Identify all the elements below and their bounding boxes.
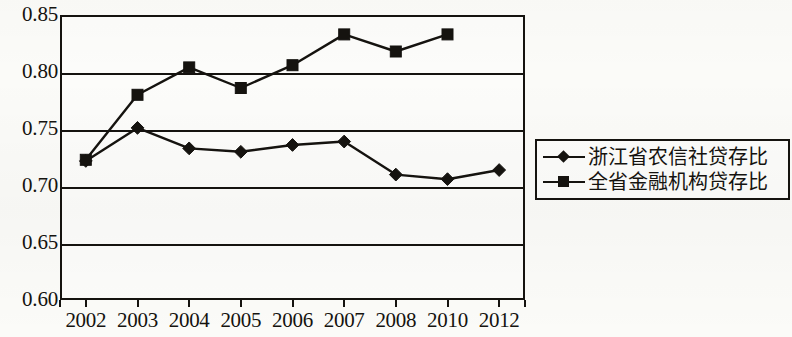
square-marker-icon: [543, 172, 585, 192]
y-axis-tick-label: 0.80: [2, 61, 58, 82]
x-axis-tick-mark: [292, 300, 294, 307]
x-axis-tick-label: 2002: [65, 308, 106, 332]
x-axis-tick-mark: [188, 300, 190, 307]
gridline: [62, 73, 523, 75]
legend-label-series-2: 全省金融机构贷存比: [585, 171, 768, 193]
x-axis-tick-label: 2006: [272, 308, 313, 332]
x-axis-tick-mark: [137, 300, 139, 307]
x-axis-tick-mark: [524, 300, 526, 307]
x-axis-tick-mark: [240, 300, 242, 307]
y-axis-tick-label: 0.70: [2, 175, 58, 196]
x-axis-tick-mark: [85, 300, 87, 307]
x-axis-tick-label: 2012: [479, 308, 520, 332]
y-axis-tick-label: 0.60: [2, 289, 58, 310]
y-axis-tick-label: 0.85: [2, 4, 58, 25]
x-axis-tick-label: 2004: [169, 308, 210, 332]
y-axis-tick-label: 0.65: [2, 232, 58, 253]
x-axis-tick-mark: [447, 300, 449, 307]
legend-label-series-1: 浙江省农信社贷存比: [585, 146, 768, 168]
x-axis-tick-labels: 200220032004200520062007200820102012: [0, 308, 792, 337]
legend-item-series-2[interactable]: 全省金融机构贷存比: [543, 169, 782, 194]
legend-item-series-1[interactable]: 浙江省农信社贷存比: [543, 144, 782, 169]
gridline: [62, 244, 523, 246]
gridline: [62, 187, 523, 189]
x-axis-tick-label: 2008: [375, 308, 416, 332]
y-axis-tick-labels: 0.850.800.750.700.650.60: [0, 0, 58, 337]
plot-area: [60, 15, 525, 300]
legend: 浙江省农信社贷存比 全省金融机构贷存比: [535, 139, 790, 200]
x-axis-tick-mark: [59, 300, 61, 307]
x-axis-tick-label: 2010: [427, 308, 468, 332]
line-chart: 0.850.800.750.700.650.60 200220032004200…: [0, 0, 792, 337]
gridline: [62, 130, 523, 132]
x-axis-tick-label: 2007: [324, 308, 365, 332]
x-axis-tick-label: 2003: [117, 308, 158, 332]
x-axis-tick-mark: [395, 300, 397, 307]
x-axis-tick-mark: [498, 300, 500, 307]
x-axis-tick-mark: [343, 300, 345, 307]
x-axis-tick-label: 2005: [220, 308, 261, 332]
y-axis-tick-label: 0.75: [2, 118, 58, 139]
diamond-marker-icon: [543, 147, 585, 167]
